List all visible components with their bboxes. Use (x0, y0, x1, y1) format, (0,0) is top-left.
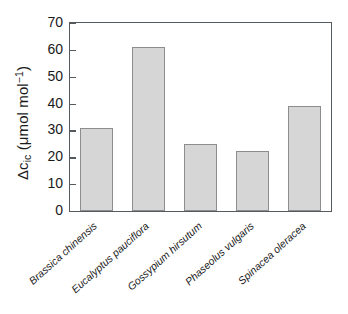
y-axis-tick-label: 60 (23, 41, 63, 57)
y-axis-tick-label: 50 (23, 68, 63, 84)
y-axis-tick-mark (70, 184, 76, 185)
y-axis-tick-label: 40 (23, 95, 63, 111)
y-axis-tick-mark (70, 77, 76, 78)
figure: Δcic (μmol mol−1) 010203040506070 Brassi… (0, 0, 348, 314)
y-axis-tick-label: 20 (23, 148, 63, 164)
y-axis-tick-mark (70, 23, 76, 24)
y-axis-tick-mark (70, 50, 76, 51)
y-axis-tick-label: 30 (23, 121, 63, 137)
plot-area (69, 22, 332, 212)
bar[interactable] (288, 106, 321, 211)
y-axis-tick-mark (70, 211, 76, 212)
y-axis-tick-mark (70, 157, 76, 158)
y-axis-tick-label: 0 (23, 202, 63, 218)
bar[interactable] (236, 151, 269, 211)
y-axis-tick-label: 10 (23, 175, 63, 191)
bar[interactable] (80, 128, 113, 211)
y-axis-ticks: 010203040506070 (0, 0, 69, 314)
bar[interactable] (132, 47, 165, 211)
bar[interactable] (184, 144, 217, 211)
y-axis-tick-mark (70, 130, 76, 131)
y-axis-tick-mark (70, 104, 76, 105)
y-axis-tick-label: 70 (23, 14, 63, 30)
